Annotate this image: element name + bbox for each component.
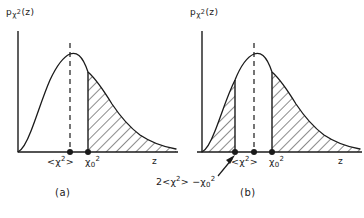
tick-mean-close: >	[66, 156, 74, 167]
marker-mean	[251, 149, 257, 155]
marker-threshold	[85, 149, 91, 155]
tick-label-mean: <χ2>	[231, 156, 258, 167]
y-axis-label: pχ2(z)	[190, 8, 218, 19]
left-threshold-annotation: 2<χ2> −χ02	[156, 176, 215, 189]
annot-coef: 2<	[156, 176, 170, 187]
tick-label-mean: <χ2>	[47, 156, 74, 167]
shaded-right-tail	[88, 72, 176, 152]
panel-b: pχ2(z) <χ2> χ02 z 2<χ2> −χ02 (b)	[182, 0, 364, 218]
y-axis-label: pχ2(z)	[6, 8, 34, 19]
marker-mean	[67, 149, 73, 155]
annot-mid: > −	[181, 176, 201, 187]
panel-b-caption: (b)	[240, 188, 256, 198]
marker-left-threshold	[232, 149, 238, 155]
annot-exp2: 2	[211, 175, 216, 183]
marker-threshold	[269, 149, 275, 155]
y-axis-label-arg: (z)	[205, 7, 218, 17]
figure-root: pχ2(z) <χ2> χ02 z (a)	[0, 0, 364, 218]
panel-a-plot	[0, 0, 182, 218]
y-axis-label-arg: (z)	[21, 7, 34, 17]
tick-mean-close: >	[250, 156, 258, 167]
shaded-right-tail	[272, 72, 360, 152]
tick-threshold-exp: 2	[280, 155, 285, 163]
tick-threshold-exp: 2	[96, 155, 101, 163]
panel-a-caption: (a)	[55, 188, 70, 198]
x-axis-name-label: z	[338, 157, 343, 166]
x-axis-name-label: z	[152, 157, 157, 166]
tick-label-threshold: χ02	[85, 156, 100, 169]
tick-label-threshold: χ02	[269, 156, 284, 169]
panel-a: pχ2(z) <χ2> χ02 z (a)	[0, 0, 182, 218]
